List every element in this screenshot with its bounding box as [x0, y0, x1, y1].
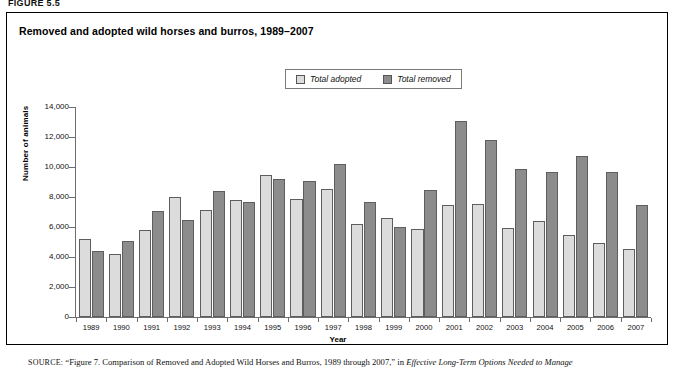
bar-1994-adopted — [230, 200, 242, 317]
x-tick-label-1991: 1991 — [137, 323, 167, 332]
bar-2002-removed — [485, 140, 497, 317]
y-tick-label: 14,000 — [25, 102, 69, 111]
bar-group — [109, 107, 134, 317]
x-tick-label-2007: 2007 — [621, 323, 651, 332]
y-tick-mark — [69, 197, 76, 198]
source-prefix: SOURCE: — [28, 358, 63, 367]
x-tick-mark — [288, 318, 289, 322]
bar-group — [260, 107, 285, 317]
x-tick-mark — [530, 318, 531, 322]
bar-2001-adopted — [442, 205, 454, 317]
x-tick-label-1998: 1998 — [348, 323, 378, 332]
x-tick-label-1997: 1997 — [318, 323, 348, 332]
bar-group — [411, 107, 436, 317]
x-tick-mark — [621, 318, 622, 322]
x-tick-mark — [379, 318, 380, 322]
bar-2000-adopted — [411, 229, 423, 318]
bar-1996-adopted — [290, 199, 302, 318]
x-tick-mark — [590, 318, 591, 322]
bar-1991-removed — [152, 211, 164, 318]
bar-1997-removed — [334, 164, 346, 317]
bar-2003-removed — [515, 169, 527, 317]
x-tick-mark — [318, 318, 319, 322]
bar-group — [472, 107, 497, 317]
bar-1991-adopted — [139, 230, 151, 317]
x-tick-label-2005: 2005 — [560, 323, 590, 332]
x-axis-line — [75, 317, 651, 318]
bar-2006-removed — [606, 172, 618, 317]
x-tick-mark — [167, 318, 168, 322]
source-text: “Figure 7. Comparison of Removed and Ado… — [65, 357, 406, 367]
y-tick-label: 6,000 — [25, 222, 69, 231]
bar-1995-removed — [273, 179, 285, 317]
x-tick-label-1999: 1999 — [379, 323, 409, 332]
x-tick-mark — [197, 318, 198, 322]
x-tick-mark — [469, 318, 470, 322]
bar-2006-adopted — [593, 243, 605, 317]
y-tick-label: 12,000 — [25, 132, 69, 141]
plot-area: Number of animals 02,0004,0006,0008,0001… — [7, 13, 669, 346]
x-tick-mark — [348, 318, 349, 322]
bar-2005-adopted — [563, 235, 575, 318]
x-tick-mark — [651, 318, 652, 322]
x-tick-label-2000: 2000 — [409, 323, 439, 332]
bar-1999-removed — [394, 227, 406, 317]
y-tick-mark — [69, 287, 76, 288]
x-tick-label-1995: 1995 — [258, 323, 288, 332]
bar-group — [593, 107, 618, 317]
y-tick-label: 10,000 — [25, 162, 69, 171]
bar-group — [502, 107, 527, 317]
bar-group — [79, 107, 104, 317]
figure-box: Removed and adopted wild horses and burr… — [6, 12, 668, 345]
y-tick-mark — [69, 137, 76, 138]
x-tick-label-2002: 2002 — [469, 323, 499, 332]
bar-1998-removed — [364, 202, 376, 318]
x-tick-label-1994: 1994 — [227, 323, 257, 332]
source-italic-text: Effective Long-Term Options Needed to Ma… — [406, 357, 573, 367]
x-tick-label-1989: 1989 — [76, 323, 106, 332]
bar-group — [139, 107, 164, 317]
y-tick-label: 2,000 — [25, 282, 69, 291]
bar-1992-removed — [182, 220, 194, 318]
x-tick-mark — [500, 318, 501, 322]
source-note: SOURCE: “Figure 7. Comparison of Removed… — [28, 357, 668, 368]
x-tick-mark — [258, 318, 259, 322]
y-tick-mark — [69, 167, 76, 168]
bar-1990-adopted — [109, 254, 121, 317]
bar-2004-removed — [546, 172, 558, 317]
bar-2002-adopted — [472, 204, 484, 317]
bar-1990-removed — [122, 241, 134, 317]
bar-2007-adopted — [623, 249, 635, 317]
bar-group — [381, 107, 406, 317]
bar-1993-removed — [213, 191, 225, 317]
bar-1999-adopted — [381, 218, 393, 317]
bar-1994-removed — [243, 202, 255, 318]
bar-group — [351, 107, 376, 317]
x-tick-label-1993: 1993 — [197, 323, 227, 332]
x-axis-title: Year — [7, 335, 669, 344]
bar-2001-removed — [455, 121, 467, 317]
y-tick-mark — [69, 107, 76, 108]
x-tick-mark — [137, 318, 138, 322]
x-tick-label-2004: 2004 — [530, 323, 560, 332]
bar-group — [290, 107, 315, 317]
y-tick-label: 0 — [25, 312, 69, 321]
bar-2005-removed — [576, 156, 588, 317]
x-tick-label-1992: 1992 — [167, 323, 197, 332]
x-tick-label-2001: 2001 — [439, 323, 469, 332]
bar-2007-removed — [636, 205, 648, 317]
x-tick-mark — [560, 318, 561, 322]
figure-label: FIGURE 5.5 — [8, 0, 60, 9]
x-tick-mark — [76, 318, 77, 322]
bar-2004-adopted — [533, 221, 545, 317]
y-tick-mark — [69, 257, 76, 258]
x-tick-label-2003: 2003 — [500, 323, 530, 332]
bar-series-container — [76, 107, 651, 317]
bar-group — [563, 107, 588, 317]
x-tick-label-1990: 1990 — [106, 323, 136, 332]
bar-2003-adopted — [502, 228, 514, 317]
bar-group — [169, 107, 194, 317]
bar-group — [321, 107, 346, 317]
bar-1993-adopted — [200, 210, 212, 317]
y-tick-label: 8,000 — [25, 192, 69, 201]
